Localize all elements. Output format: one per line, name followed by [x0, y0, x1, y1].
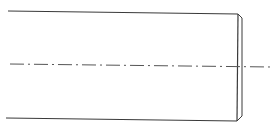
bottom-edge [6, 118, 237, 121]
shaft-drawing [0, 0, 272, 132]
top-edge [8, 11, 238, 14]
centerline [10, 64, 272, 67]
end-face [237, 14, 238, 121]
chamfer-bottom [237, 116, 242, 121]
chamfer-top [238, 14, 242, 18]
